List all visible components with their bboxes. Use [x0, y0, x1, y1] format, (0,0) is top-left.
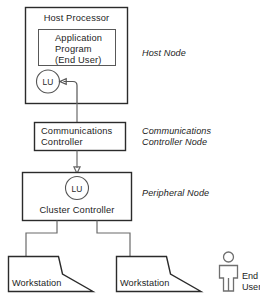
- application-program-line3: (End User): [55, 55, 101, 67]
- person-icon: [220, 252, 238, 291]
- peripheral-lu-label: LU: [66, 184, 88, 196]
- host-node-label: Host Node: [142, 48, 186, 60]
- host-processor-label: Host Processor: [25, 13, 128, 25]
- workstation-label-right: Workstation: [120, 278, 169, 290]
- communications-controller-line1: Communications: [41, 126, 112, 138]
- workstation-branch-left: [26, 221, 57, 257]
- sna-node-diagram: Host Processor Application Program (End …: [0, 0, 260, 301]
- workstation-label-left: Workstation: [12, 278, 61, 290]
- workstation-branch-right: [97, 221, 130, 257]
- peripheral-node-label: Peripheral Node: [142, 188, 209, 200]
- communications-controller-line2: Controller: [41, 137, 83, 149]
- application-program-line1: Application: [55, 33, 102, 45]
- end-user-label-line1: End: [242, 271, 258, 282]
- communications-controller-node-label-line1: Communications: [142, 126, 211, 138]
- communications-controller-node-label-line2: Controller Node: [142, 137, 207, 149]
- cluster-controller-label: Cluster Controller: [22, 205, 132, 217]
- diagram-canvas: [0, 0, 260, 301]
- application-program-line2: Program: [55, 44, 92, 56]
- host-lu-label: LU: [37, 77, 59, 89]
- end-user-label-line2: User: [242, 282, 260, 293]
